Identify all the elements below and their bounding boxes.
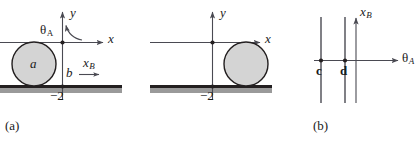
y-axis-label-b: y [220, 6, 226, 19]
caption-a: (a) [5, 118, 19, 134]
theta-a-label: θA [40, 23, 53, 38]
xb-symbol-c: x [360, 4, 366, 19]
intersection-point-d [343, 58, 347, 62]
xb-symbol-a: x [83, 55, 89, 70]
theta-subscript-c: A [408, 56, 414, 66]
xb-subscript-a: B [89, 61, 95, 71]
tick-label-minus2-a: −2 [50, 89, 64, 102]
panel-c: c d xB θA (c) [300, 0, 420, 142]
theta-subscript-a: A [46, 28, 53, 38]
theta-axis-label-c: θA [402, 51, 414, 66]
line-d-label: d [340, 64, 347, 77]
origin-point-a [60, 40, 64, 44]
line-c-label: c [316, 64, 322, 77]
theta-arc-arrow-a [66, 26, 82, 41]
contact-label-a: b [66, 66, 73, 79]
panel-b-graphics [150, 0, 300, 142]
xb-subscript-c: B [366, 10, 372, 20]
x-axis-label-a: x [108, 32, 114, 45]
panel-a: y x θA a b xB −2 (a) [0, 0, 150, 142]
origin-point-b [210, 40, 214, 44]
tick-label-minus2-b: −2 [200, 89, 214, 102]
figure-container: y x θA a b xB −2 (a) [0, 0, 420, 142]
intersection-point-c [319, 58, 323, 62]
x-axis-label-b: x [265, 32, 271, 45]
disk-label-a: a [30, 57, 37, 70]
xb-axis-label-c: xB [360, 5, 372, 20]
panel-b: y x −2 (b) [150, 0, 300, 142]
xb-label-a: xB [83, 56, 95, 71]
panel-a-graphics [0, 0, 150, 142]
disk-b [224, 42, 268, 86]
y-axis-label-a: y [70, 6, 76, 19]
